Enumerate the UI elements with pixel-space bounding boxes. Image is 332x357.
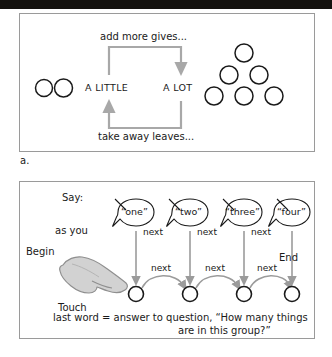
end-label: End xyxy=(279,252,298,264)
a-lot-label: A LOT xyxy=(163,83,193,94)
take-away-leaves-label: take away leaves... xyxy=(98,131,194,143)
spoken-word-four: “four” xyxy=(277,207,306,218)
next-label-upper-2: next xyxy=(197,227,217,237)
next-label-lower-2: next xyxy=(205,263,225,273)
figure-label-a: a. xyxy=(20,155,30,166)
next-label-upper-3: next xyxy=(251,227,271,237)
spoken-word-three: “three” xyxy=(225,207,260,218)
next-label-upper-1: next xyxy=(143,227,163,237)
say-label: Say: xyxy=(62,192,83,204)
a-little-label: A LITTLE xyxy=(85,83,128,94)
add-more-gives-label: add more gives... xyxy=(100,31,187,43)
figure-root: a. xyxy=(0,0,332,357)
next-label-lower-3: next xyxy=(257,263,277,273)
spoken-word-two: “two” xyxy=(175,207,202,218)
next-label-lower-1: next xyxy=(151,263,171,273)
as-you-label: as you xyxy=(55,225,88,237)
caption-line-1: last word = answer to question, “How man… xyxy=(53,312,308,324)
caption-line-2: are in this group?” xyxy=(178,325,271,337)
begin-label: Begin xyxy=(26,246,54,258)
spoken-word-one: “one” xyxy=(121,207,148,218)
page-top-band xyxy=(0,0,332,9)
